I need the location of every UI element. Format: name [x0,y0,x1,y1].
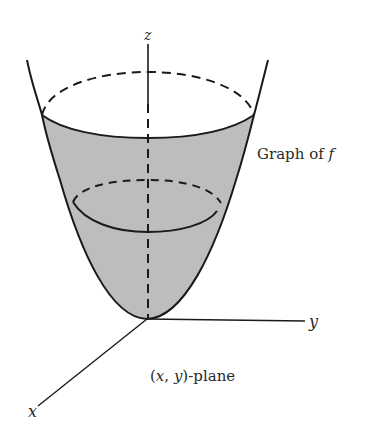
plane-text: -plane [188,367,235,385]
graph-of-f-label: Graph of f [257,145,334,163]
paraboloid-diagram [0,0,387,430]
y-axis-label: y [309,312,318,331]
xy-plane-label: (x, y)-plane [150,367,235,385]
function-f: f [328,145,334,163]
x-axis-label: x [28,402,37,421]
x-axis [38,319,147,406]
comma: , [164,367,174,385]
graph-of-text: Graph of [257,145,328,163]
z-axis-label: z [144,27,151,43]
y-axis [147,319,305,321]
